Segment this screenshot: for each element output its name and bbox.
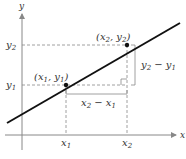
rise-label: y2 − y1 [140, 59, 176, 72]
right-angle-marker [121, 79, 127, 85]
y1-tick-label: y1 [5, 79, 16, 92]
run-label: x2 − x1 [81, 97, 116, 110]
x2-tick-label: x2 [122, 137, 133, 150]
dashed-guides [22, 45, 127, 135]
run-bracket [66, 90, 127, 94]
point-1-label: (x1, y1) [34, 71, 69, 84]
x-axis-label: x [180, 130, 185, 140]
line [7, 23, 180, 123]
y-axis-label: y [18, 1, 25, 11]
y2-tick-label: y2 [5, 39, 17, 52]
x1-tick-label: x1 [61, 137, 71, 150]
point-2-label: (x2, y2) [96, 31, 131, 44]
slope-diagram: x y (x1, y1) (x2, y2) x2 − x1 y2 − y1 y2… [0, 0, 186, 159]
